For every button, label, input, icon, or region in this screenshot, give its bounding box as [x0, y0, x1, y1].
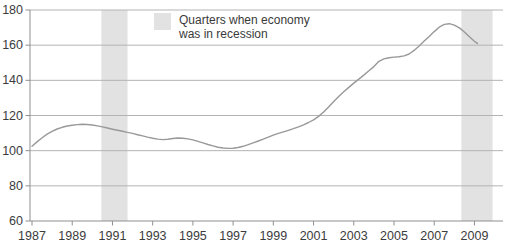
x-tick-label: 1997 [219, 229, 247, 243]
y-tick-label: 180 [2, 3, 23, 17]
x-tick-label: 2001 [300, 229, 328, 243]
x-tick-label: 1995 [179, 229, 207, 243]
data-series-line [32, 24, 478, 149]
y-tick-label: 120 [2, 109, 23, 123]
y-tick-label: 80 [9, 179, 23, 193]
legend-label: Quarters when economy was in recession [179, 13, 310, 41]
x-tick-label: 2009 [461, 229, 489, 243]
y-tick-label: 60 [9, 214, 23, 228]
x-tick-label: 1993 [139, 229, 167, 243]
x-tick-label: 1999 [259, 229, 287, 243]
y-tick-label: 140 [2, 73, 23, 87]
line-chart-figure: 6080100120140160180198719891991199319951… [0, 0, 509, 250]
x-tick-label: 2003 [340, 229, 368, 243]
legend-label-line2: was in recession [179, 27, 310, 41]
y-tick-label: 100 [2, 144, 23, 158]
x-tick-label: 1989 [58, 229, 86, 243]
recession-band-swatch-icon [154, 13, 171, 30]
x-tick-label: 1987 [18, 229, 46, 243]
x-tick-label: 2007 [420, 229, 448, 243]
y-tick-label: 160 [2, 38, 23, 52]
legend: Quarters when economy was in recession [154, 13, 310, 41]
legend-label-line1: Quarters when economy [179, 13, 310, 27]
x-tick-label: 1991 [99, 229, 127, 243]
x-tick-label: 2005 [380, 229, 408, 243]
